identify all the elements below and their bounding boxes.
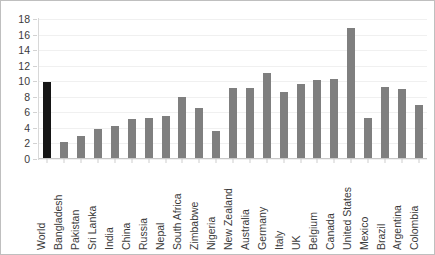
x-axis-label-india: India [103,227,115,250]
x-tick-mark [98,159,99,163]
bar-slot [275,19,292,159]
bar-slot [107,19,124,159]
x-axis-label-china: China [120,223,132,250]
bar-slot [360,19,377,159]
x-axis-category-labels: WorldBangladeshPakistanSri LankaIndiaChi… [39,164,429,252]
bar[interactable] [43,82,51,159]
y-tick-mark [33,66,37,67]
x-tick-mark [165,159,166,163]
plot-area [39,15,429,160]
y-tick-label: 18 [18,14,30,25]
y-tick-mark [33,81,37,82]
x-tick-mark [148,159,149,163]
x-tick-mark [199,159,200,163]
x-tick-mark [317,159,318,163]
x-tick-mark [334,159,335,163]
bar-slot [90,19,107,159]
bar[interactable] [263,73,271,159]
x-label-slot: Colombia [412,164,429,252]
x-tick-mark [233,159,234,163]
x-axis-label-italy: Italy [273,231,285,250]
bar[interactable] [94,129,102,159]
x-label-rotator: Colombia [420,164,432,250]
bar-slot [242,19,259,159]
x-tick-mark [418,159,419,163]
x-axis-label-nepal: Nepal [154,223,166,250]
bar[interactable] [347,28,355,159]
bar[interactable] [128,119,136,159]
bar[interactable] [280,92,288,159]
x-axis-label-australia: Australia [239,209,251,250]
x-tick-mark [64,159,65,163]
bar[interactable] [246,88,254,159]
x-tick-mark [401,159,402,163]
y-tick-mark [33,143,37,144]
x-axis-label-canada: Canada [324,213,336,250]
bar-slot [309,19,326,159]
bar[interactable] [77,136,85,159]
x-tick-mark [131,159,132,163]
y-tick-label: 8 [24,92,30,103]
x-tick-mark [114,159,115,163]
y-tick-mark [33,128,37,129]
bar[interactable] [364,118,372,159]
x-axis-label-zimbabwe: Zimbabwe [188,202,200,250]
bar[interactable] [212,131,220,159]
y-axis: 181614121086420 [1,15,37,160]
bar[interactable] [60,142,68,159]
y-tick-label: 12 [18,60,30,71]
x-axis-label-south-africa: South Africa [171,193,183,250]
y-tick-label: 6 [24,107,30,118]
x-tick-mark [81,159,82,163]
bar-slot [123,19,140,159]
x-tick-mark [249,159,250,163]
bar[interactable] [330,79,338,159]
bar[interactable] [381,87,389,159]
y-tick-mark [33,112,37,113]
bar-chart-figure: 181614121086420 WorldBangladeshPakistanS… [0,0,435,255]
x-axis-label-sri-lanka: Sri Lanka [86,206,98,250]
bar[interactable] [415,105,423,159]
bar[interactable] [398,89,406,159]
x-axis-label-mexico: Mexico [358,217,370,250]
y-tick-label: 2 [24,138,30,149]
bar-slot [208,19,225,159]
x-axis-label-brazil: Brazil [375,224,387,250]
y-tick-label: 4 [24,123,30,134]
bar[interactable] [111,126,119,159]
x-tick-mark [351,159,352,163]
bar-slot [39,19,56,159]
y-tick-label: 16 [18,29,30,40]
bar-slot [258,19,275,159]
bar[interactable] [178,97,186,159]
bar-slot [73,19,90,159]
x-tick-mark [47,159,48,163]
x-tick-mark [216,159,217,163]
x-axis-label-pakistan: Pakistan [69,210,81,250]
x-tick-mark [182,159,183,163]
bar-slot [377,19,394,159]
x-axis-label-germany: Germany [256,207,268,250]
bar[interactable] [229,88,237,159]
x-axis-line [39,158,427,159]
plot-inner [39,19,427,159]
bar-slot [191,19,208,159]
bar[interactable] [162,116,170,159]
bar[interactable] [313,80,321,159]
x-axis-label-belgium: Belgium [307,212,319,250]
x-axis-label-world: World [35,223,47,250]
x-axis-label-united-states: United States [341,187,353,250]
x-axis-label-argentina: Argentina [391,205,403,250]
x-axis-label-nigeria: Nigeria [205,217,217,250]
bar[interactable] [297,84,305,159]
x-tick-mark [384,159,385,163]
bar-slot [56,19,73,159]
bar-slot [410,19,427,159]
y-tick-label: 10 [18,76,30,87]
bar-slot [393,19,410,159]
bar-slot [140,19,157,159]
bar[interactable] [145,118,153,159]
bar-slot [343,19,360,159]
bar-slot [292,19,309,159]
bar[interactable] [195,108,203,159]
